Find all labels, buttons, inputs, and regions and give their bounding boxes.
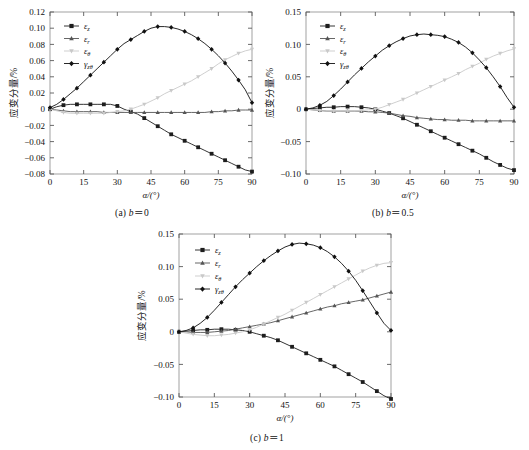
svg-text:0.15: 0.15 — [285, 7, 301, 17]
figure-root: 0153045607590−0.08−0.06−0.04−0.0200.020.… — [0, 0, 529, 450]
svg-text:−0.05: −0.05 — [153, 360, 174, 370]
svg-text:30: 30 — [113, 177, 123, 187]
svg-text:−0.05: −0.05 — [280, 137, 301, 147]
svg-text:75: 75 — [214, 177, 224, 187]
svg-text:15: 15 — [210, 400, 220, 410]
svg-text:0.08: 0.08 — [29, 40, 45, 50]
svg-text:15: 15 — [336, 177, 346, 187]
svg-text:45: 45 — [147, 177, 157, 187]
svg-text:0.15: 0.15 — [158, 229, 174, 239]
svg-text:εz: εz — [84, 21, 90, 32]
svg-text:30: 30 — [371, 177, 381, 187]
panel-caption-b: (b) b＝0.5 — [262, 205, 524, 219]
svg-text:εz: εz — [215, 245, 221, 256]
svg-text:应变分量/%: 应变分量/% — [8, 68, 19, 119]
svg-text:60: 60 — [440, 177, 450, 187]
svg-text:εr: εr — [215, 258, 221, 269]
svg-text:45: 45 — [406, 177, 416, 187]
svg-text:0.12: 0.12 — [29, 7, 45, 17]
panel-caption-b-label: (b) — [372, 208, 384, 218]
chart-panel-b: 0153045607590−0.10−0.0500.050.100.15α/(°… — [262, 4, 524, 219]
panel-caption-a-label: (a) — [115, 208, 126, 218]
svg-text:0: 0 — [177, 400, 182, 410]
svg-text:0.05: 0.05 — [158, 294, 174, 304]
panel-caption-b-value: 0.5 — [401, 208, 413, 218]
panel-caption-b-eq: ＝ — [391, 208, 401, 218]
svg-text:0: 0 — [41, 104, 46, 114]
svg-text:0.10: 0.10 — [29, 23, 45, 33]
svg-text:εθ: εθ — [215, 271, 221, 282]
chart-panel-a: 0153045607590−0.08−0.06−0.04−0.0200.020.… — [6, 4, 258, 219]
svg-text:εr: εr — [340, 34, 346, 45]
svg-text:γzθ: γzθ — [215, 284, 224, 295]
svg-text:−0.10: −0.10 — [153, 392, 174, 402]
svg-text:εr: εr — [84, 34, 90, 45]
svg-text:0: 0 — [48, 177, 53, 187]
svg-text:0.06: 0.06 — [29, 56, 45, 66]
svg-text:90: 90 — [510, 177, 520, 187]
panel-caption-a-eq: ＝ — [134, 208, 144, 218]
svg-text:应变分量/%: 应变分量/% — [136, 290, 147, 341]
svg-text:γzθ: γzθ — [84, 59, 93, 70]
svg-text:0: 0 — [297, 104, 302, 114]
svg-text:−0.02: −0.02 — [24, 121, 45, 131]
chart-plot-c: 0153045607590−0.10−0.0500.050.100.15α/(°… — [133, 224, 401, 429]
svg-text:γzθ: γzθ — [340, 59, 349, 70]
svg-text:α/(°): α/(°) — [277, 413, 294, 423]
svg-text:−0.10: −0.10 — [280, 169, 301, 179]
svg-text:εθ: εθ — [340, 46, 346, 57]
svg-text:75: 75 — [351, 400, 361, 410]
svg-text:α/(°): α/(°) — [143, 190, 160, 200]
svg-text:−0.08: −0.08 — [24, 169, 45, 179]
svg-text:−0.04: −0.04 — [24, 137, 45, 147]
svg-text:45: 45 — [281, 400, 291, 410]
svg-text:0.04: 0.04 — [29, 72, 45, 82]
svg-text:εz: εz — [340, 21, 346, 32]
svg-text:0: 0 — [304, 177, 309, 187]
panel-caption-a: (a) b＝0 — [6, 205, 258, 219]
svg-text:0.05: 0.05 — [285, 72, 301, 82]
svg-text:75: 75 — [475, 177, 485, 187]
chart-panel-c: 0153045607590−0.10−0.0500.050.100.15α/(°… — [133, 224, 401, 446]
svg-text:90: 90 — [248, 177, 258, 187]
svg-text:应变分量/%: 应变分量/% — [264, 68, 275, 119]
svg-text:15: 15 — [79, 177, 89, 187]
panel-caption-a-value: 0 — [144, 208, 149, 218]
page-footer-ghost — [0, 441, 529, 450]
svg-text:0: 0 — [170, 327, 175, 337]
chart-plot-a: 0153045607590−0.08−0.06−0.04−0.0200.020.… — [6, 4, 258, 204]
svg-text:60: 60 — [316, 400, 326, 410]
svg-text:0.02: 0.02 — [29, 88, 45, 98]
svg-text:εθ: εθ — [84, 46, 90, 57]
svg-text:60: 60 — [180, 177, 190, 187]
svg-text:α/(°): α/(°) — [402, 190, 419, 200]
svg-text:90: 90 — [387, 400, 397, 410]
chart-plot-b: 0153045607590−0.10−0.0500.050.100.15α/(°… — [262, 4, 524, 204]
svg-text:0.10: 0.10 — [158, 262, 174, 272]
svg-text:0.10: 0.10 — [285, 40, 301, 50]
svg-text:−0.06: −0.06 — [24, 153, 45, 163]
svg-text:30: 30 — [245, 400, 255, 410]
